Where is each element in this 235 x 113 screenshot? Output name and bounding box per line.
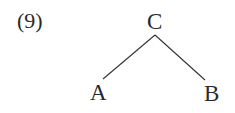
edge-c-b <box>155 35 205 80</box>
tree-diagram: (9) C A B <box>0 0 235 113</box>
tree-edges <box>0 0 235 113</box>
node-right: B <box>204 82 219 105</box>
edge-c-a <box>103 35 155 79</box>
node-root: C <box>147 10 162 33</box>
node-left: A <box>90 81 107 104</box>
